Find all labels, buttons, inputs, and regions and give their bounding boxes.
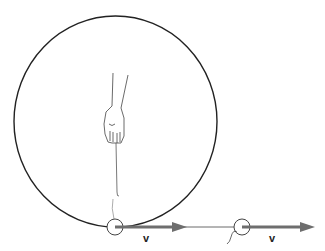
string-tail [112, 199, 114, 219]
velocity-label-2: v [269, 232, 275, 244]
string [116, 143, 119, 196]
velocity-label-1: v [143, 232, 149, 244]
diagram-canvas [0, 0, 325, 251]
string-released [227, 231, 237, 244]
hand-icon [104, 73, 128, 143]
arrowhead-2-icon [300, 222, 315, 232]
arrowhead-1-icon [172, 222, 187, 232]
